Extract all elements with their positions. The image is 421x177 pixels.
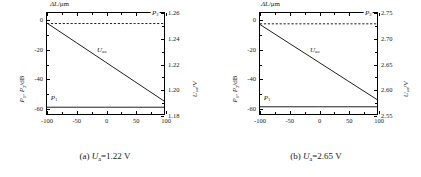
x-tick-minor bbox=[62, 112, 63, 114]
y-tick-right bbox=[374, 90, 377, 91]
curve-U_ao bbox=[260, 25, 377, 100]
y-axis-left-title-a: P1, P2/dB bbox=[18, 75, 26, 102]
curve-label-p2: P2 bbox=[151, 8, 160, 16]
y-tick-label-right: 1.20 bbox=[168, 87, 179, 94]
plot-curves-b bbox=[260, 13, 377, 114]
y-tick-label-left: 0 bbox=[253, 17, 256, 24]
x-tick bbox=[290, 111, 291, 114]
x-tick-minor bbox=[92, 112, 93, 114]
x-tick-label: -50 bbox=[285, 118, 294, 125]
y-axis-right-title-b: Uao/V bbox=[403, 80, 411, 97]
x-tick-minor bbox=[121, 112, 122, 114]
x-tick-minor bbox=[334, 112, 335, 114]
plot-area-a: 0-20-40-601.261.241.221.201.18-100-50050… bbox=[46, 12, 165, 115]
x-tick-minor bbox=[275, 112, 276, 114]
x-tick bbox=[260, 111, 261, 114]
x-tick-label: 50 bbox=[133, 118, 140, 125]
x-tick bbox=[107, 111, 108, 114]
y-tick-right bbox=[374, 65, 377, 66]
x-tick bbox=[349, 111, 350, 114]
panel-b: P1, P2/dB Uao/V ΔL/μm 0-20-40-602.752.70… bbox=[211, 0, 421, 177]
x-tick bbox=[77, 13, 78, 16]
y-tick-right-minor bbox=[375, 77, 377, 78]
y-tick-left-minor bbox=[47, 94, 49, 95]
y-tick-label-left: -40 bbox=[247, 76, 256, 83]
curve-label-p1: P1 bbox=[263, 93, 272, 101]
x-tick bbox=[320, 13, 321, 16]
y-tick-label-left: -20 bbox=[247, 47, 256, 54]
y-tick-right bbox=[161, 13, 164, 14]
y-tick-left-minor bbox=[47, 65, 49, 66]
y-tick-right-minor bbox=[162, 77, 164, 78]
x-tick-minor bbox=[334, 13, 335, 15]
y-tick-left bbox=[47, 109, 50, 110]
y-tick-left bbox=[47, 20, 50, 21]
x-tick-minor bbox=[151, 112, 152, 114]
x-tick-minor bbox=[364, 112, 365, 114]
plot-curves-a bbox=[47, 13, 164, 114]
y-tick-right bbox=[374, 39, 377, 40]
x-tick bbox=[166, 111, 167, 114]
y-tick-label-left: -60 bbox=[34, 105, 43, 112]
curve-U_ao bbox=[47, 23, 164, 101]
y-tick-left-minor bbox=[47, 35, 49, 36]
x-tick-minor bbox=[62, 13, 63, 15]
y-tick-right bbox=[161, 90, 164, 91]
y-tick-left-minor bbox=[260, 65, 262, 66]
y-tick-right bbox=[374, 13, 377, 14]
y-tick-right-minor bbox=[375, 52, 377, 53]
x-tick bbox=[320, 111, 321, 114]
y-tick-left-minor bbox=[260, 94, 262, 95]
x-tick-label: 50 bbox=[346, 118, 353, 125]
y-tick-label-left: -20 bbox=[34, 47, 43, 54]
x-tick-label: -50 bbox=[72, 118, 81, 125]
x-tick-label: 100 bbox=[161, 118, 171, 125]
curve-label-uao: Uao bbox=[309, 46, 321, 54]
curve-label-uao: Uao bbox=[96, 46, 108, 54]
y-tick-label-right: 2.70 bbox=[381, 36, 392, 43]
x-tick-minor bbox=[92, 13, 93, 15]
x-tick-label: -100 bbox=[254, 118, 266, 125]
x-tick bbox=[47, 13, 48, 16]
x-tick-label: 0 bbox=[105, 118, 108, 125]
x-tick-minor bbox=[305, 13, 306, 15]
x-tick-label: -100 bbox=[41, 118, 53, 125]
x-tick bbox=[166, 13, 167, 16]
x-axis-title-a: ΔL/μm bbox=[0, 0, 119, 8]
y-tick-label-right: 1.24 bbox=[168, 36, 179, 43]
y-axis-left-title-b: P1, P2/dB bbox=[231, 75, 239, 102]
x-tick bbox=[47, 111, 48, 114]
y-tick-label-right: 2.75 bbox=[381, 10, 392, 17]
x-tick bbox=[107, 13, 108, 16]
x-tick-label: 0 bbox=[318, 118, 321, 125]
y-tick-label-right: 1.22 bbox=[168, 61, 179, 68]
curve-label-p1: P1 bbox=[50, 94, 59, 102]
y-tick-right-minor bbox=[162, 52, 164, 53]
x-tick bbox=[260, 13, 261, 16]
y-tick-label-right: 2.65 bbox=[381, 61, 392, 68]
caption-a: (a) Ua=1.22 V bbox=[0, 151, 210, 162]
plot-area-b: 0-20-40-602.752.702.652.602.55-100-50050… bbox=[259, 12, 378, 115]
y-tick-left bbox=[47, 50, 50, 51]
y-tick-right bbox=[161, 39, 164, 40]
y-tick-label-right: 1.26 bbox=[168, 10, 179, 17]
y-tick-label-left: -60 bbox=[247, 105, 256, 112]
x-axis-title-b: ΔL/μm bbox=[211, 0, 330, 8]
caption-b: (b) Ua=2.65 V bbox=[211, 151, 421, 162]
y-tick-label-right: 2.60 bbox=[381, 87, 392, 94]
x-tick-label: 100 bbox=[374, 118, 384, 125]
y-tick-left bbox=[260, 50, 263, 51]
x-tick bbox=[290, 13, 291, 16]
x-tick bbox=[379, 111, 380, 114]
panel-a: P1, P2/dB Uao/V ΔL/μm 0-20-40-601.261.24… bbox=[0, 0, 210, 177]
y-tick-right-minor bbox=[162, 103, 164, 104]
y-tick-left-minor bbox=[260, 35, 262, 36]
curve-label-p2: P2 bbox=[364, 9, 373, 17]
x-tick bbox=[349, 13, 350, 16]
y-tick-right-minor bbox=[162, 26, 164, 27]
y-tick-label-left: 0 bbox=[40, 17, 43, 24]
y-tick-right-minor bbox=[375, 103, 377, 104]
y-tick-label-left: -40 bbox=[34, 76, 43, 83]
y-tick-right bbox=[161, 65, 164, 66]
x-tick bbox=[136, 13, 137, 16]
